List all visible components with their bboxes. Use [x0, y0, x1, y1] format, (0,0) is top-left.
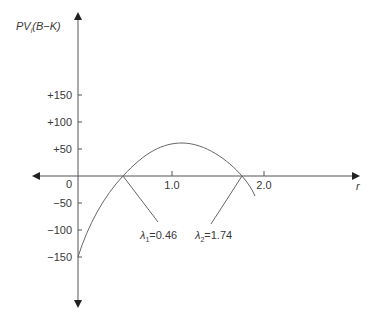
lambda1-pointer: [123, 176, 158, 222]
y-axis-label: PVi(B−K): [16, 20, 61, 34]
lambda1-label: λ1=0.46: [139, 229, 177, 243]
x-tick-label: 2.0: [256, 179, 271, 191]
y-tick-label: +100: [47, 116, 72, 128]
x-tick-label: 0: [66, 178, 72, 190]
x-tick-label: 1.0: [164, 179, 179, 191]
lambda2-label: λ2=1.74: [194, 229, 232, 243]
chart: PVi(B−K) r +150 +100 +50 −50 −100 −150 0…: [0, 0, 377, 325]
y-tick-label: +50: [53, 143, 72, 155]
x-axis-label: r: [356, 180, 361, 192]
y-tick-label: −100: [47, 224, 72, 236]
y-tick-label: −50: [53, 197, 72, 209]
lambda2-pointer: [211, 176, 242, 224]
y-tick-label: −150: [47, 251, 72, 263]
y-tick-label: +150: [47, 89, 72, 101]
